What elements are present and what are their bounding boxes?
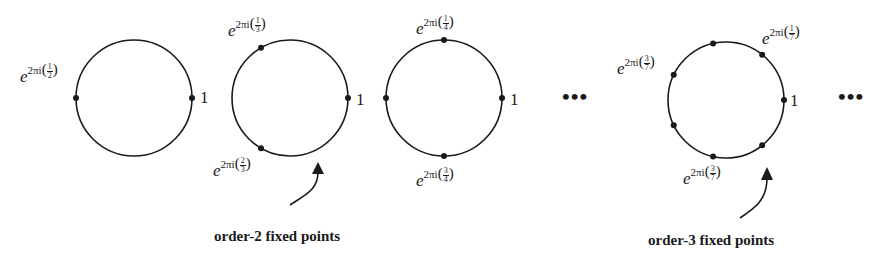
root-point-order-7-4 — [671, 122, 677, 128]
label-e-one-third: e2πi(13) — [228, 22, 266, 42]
root-point-order-2-0 — [189, 95, 195, 101]
arrow-order-2 — [290, 172, 318, 205]
arrowhead-order-3 — [761, 167, 773, 180]
root-point-order-4-3 — [441, 153, 447, 159]
arrowhead-order-2 — [312, 162, 324, 174]
root-point-order-7-6 — [759, 142, 765, 148]
root-point-order-3-2 — [258, 145, 264, 151]
root-point-order-3-0 — [345, 95, 351, 101]
ellipsis-right: ••• — [838, 84, 864, 110]
arrow-order-3 — [740, 178, 767, 218]
label-e-one-seventh: e2πi(17) — [762, 30, 800, 50]
label-e-three-sevenths-bottom: e2πi(37) — [683, 170, 721, 190]
unit-circle-order-4 — [386, 40, 502, 156]
circles-group — [73, 37, 787, 160]
root-point-order-4-2 — [383, 95, 389, 101]
label-e-half: e2πi(12) — [20, 68, 58, 88]
root-point-order-7-0 — [781, 97, 787, 103]
caption-order-2: order-2 fixed points — [214, 228, 340, 245]
unit-circle-order-2 — [76, 40, 192, 156]
label-e-one-quarter: e2πi(14) — [416, 20, 454, 40]
root-point-order-3-1 — [258, 45, 264, 51]
label-e-three-sevenths-left: e2πi(37) — [617, 60, 655, 80]
ellipsis-middle: ••• — [562, 84, 588, 110]
root-point-order-7-3 — [671, 72, 677, 78]
root-point-order-2-1 — [73, 95, 79, 101]
label-e-three-quarters: e2πi(34) — [416, 172, 454, 192]
label-one-order-4: 1 — [510, 90, 519, 110]
root-point-order-7-2 — [710, 40, 716, 46]
unit-circle-order-3 — [232, 40, 348, 156]
label-one-order-2: 1 — [200, 88, 209, 108]
root-point-order-7-5 — [710, 154, 716, 160]
label-one-order-7: 1 — [790, 91, 799, 111]
root-point-order-4-0 — [499, 95, 505, 101]
caption-order-3: order-3 fixed points — [648, 232, 774, 249]
label-e-two-thirds: e2πi(23) — [213, 162, 251, 182]
label-one-order-3: 1 — [356, 90, 365, 110]
root-point-order-7-1 — [759, 52, 765, 58]
unit-circle-order-7 — [668, 42, 784, 158]
